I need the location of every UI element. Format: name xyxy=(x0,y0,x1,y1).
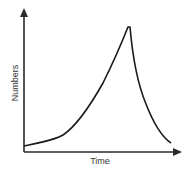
boom-bust-chart: Time Numbers xyxy=(0,0,190,177)
y-axis-label: Numbers xyxy=(10,58,20,108)
x-axis-label: Time xyxy=(80,156,120,166)
y-axis-arrow-icon xyxy=(20,8,28,17)
data-series-line xyxy=(24,27,171,146)
chart-canvas xyxy=(0,0,190,177)
x-axis-arrow-icon xyxy=(173,148,182,156)
